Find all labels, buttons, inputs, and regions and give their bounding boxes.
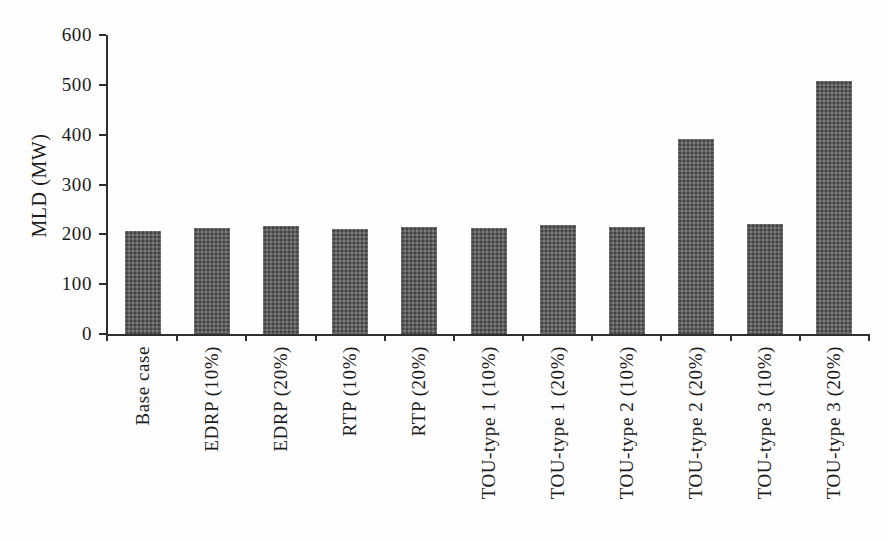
x-tick-label: TOU-type 3 (10%) xyxy=(755,346,775,499)
y-tick-label: 100 xyxy=(46,272,92,296)
bar xyxy=(194,228,230,334)
x-tick xyxy=(660,334,662,341)
x-tick-label: Base case xyxy=(133,346,153,426)
x-tick-label: RTP (20%) xyxy=(409,346,429,436)
bar xyxy=(540,225,576,334)
x-tick xyxy=(245,334,247,341)
x-tick-label: TOU-type 1 (10%) xyxy=(479,346,499,499)
bar xyxy=(332,229,368,334)
y-tick xyxy=(99,184,106,186)
x-tick-label: TOU-type 2 (10%) xyxy=(617,346,637,499)
bar-chart-figure: MLD (MW) 0100200300400500600Base caseEDR… xyxy=(0,0,888,541)
y-tick-label: 300 xyxy=(46,173,92,197)
x-tick xyxy=(591,334,593,341)
y-tick-label: 200 xyxy=(46,222,92,246)
x-tick-label: TOU-type 1 (20%) xyxy=(548,346,568,499)
x-tick xyxy=(453,334,455,341)
y-tick-label: 500 xyxy=(46,73,92,97)
y-tick-label: 400 xyxy=(46,123,92,147)
x-tick-label: RTP (10%) xyxy=(340,346,360,436)
y-tick xyxy=(99,233,106,235)
y-tick-label: 600 xyxy=(46,23,92,47)
x-tick xyxy=(868,334,870,341)
x-tick-label: EDRP (10%) xyxy=(202,346,222,452)
bar xyxy=(747,224,783,334)
x-tick xyxy=(522,334,524,341)
bar xyxy=(678,139,714,334)
x-tick xyxy=(176,334,178,341)
x-tick xyxy=(730,334,732,341)
x-tick-label: EDRP (20%) xyxy=(271,346,291,452)
bar xyxy=(263,226,299,334)
x-tick xyxy=(106,334,108,341)
y-tick xyxy=(99,134,106,136)
bar xyxy=(816,81,852,334)
y-tick xyxy=(99,333,106,335)
bar xyxy=(401,227,437,334)
x-tick xyxy=(384,334,386,341)
x-tick xyxy=(315,334,317,341)
bar xyxy=(609,227,645,334)
y-tick-label: 0 xyxy=(46,322,92,346)
plot-area: 0100200300400500600Base caseEDRP (10%)ED… xyxy=(106,35,869,336)
y-tick xyxy=(99,34,106,36)
y-tick xyxy=(99,283,106,285)
x-tick-label: TOU-type 3 (20%) xyxy=(824,346,844,499)
x-tick xyxy=(799,334,801,341)
bar xyxy=(125,231,161,334)
y-tick xyxy=(99,84,106,86)
x-tick-label: TOU-type 2 (20%) xyxy=(686,346,706,499)
bar xyxy=(471,228,507,334)
